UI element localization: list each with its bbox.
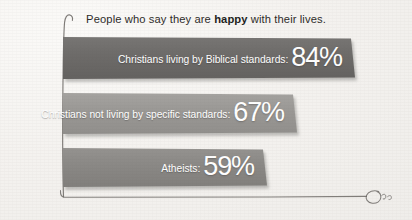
bar-label-3: Atheists: <box>161 163 200 174</box>
bar-content-3: Atheists: 59% <box>161 148 254 187</box>
chart-title-suffix: with their lives. <box>248 13 326 25</box>
bar-row-1: Christians living by Biblical standards:… <box>63 37 355 79</box>
chart-title-prefix: People who say they are <box>86 13 214 25</box>
bar-row-3: Atheists: 59% <box>63 148 267 187</box>
bar-content-1: Christians living by Biblical standards:… <box>118 37 342 79</box>
horizontal-baseline <box>60 191 366 198</box>
bar-label-2: Christians not living by specific standa… <box>41 109 230 120</box>
bar-row-2: Christians not living by specific standa… <box>63 93 297 134</box>
bar-value-3: 59% <box>203 153 254 180</box>
bar-value-1: 84% <box>291 44 342 71</box>
chart-title: People who say they are happy with their… <box>0 13 412 25</box>
bar-label-1: Christians living by Biblical standards: <box>118 54 288 65</box>
bar-content-2: Christians not living by specific standa… <box>41 93 284 134</box>
bar-value-2: 67% <box>233 99 284 126</box>
chart-title-emphasis: happy <box>214 13 247 25</box>
curl-flourish <box>366 191 391 204</box>
bar-chart: People who say they are happy with their… <box>0 0 412 220</box>
